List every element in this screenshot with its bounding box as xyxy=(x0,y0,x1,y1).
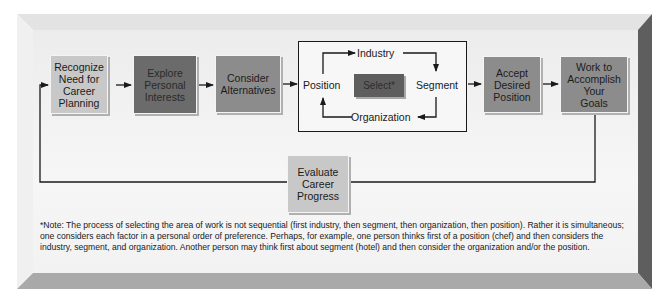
node-position: Position xyxy=(303,79,340,91)
step-work-goals: Work to Accomplish Your Goals xyxy=(560,56,628,113)
arrow-segment-organization xyxy=(418,97,436,117)
step-consider-alternatives: Consider Alternatives xyxy=(215,55,281,113)
arrow-organization-position xyxy=(323,98,352,117)
node-industry: Industry xyxy=(357,47,394,59)
step-accept-position: Accept Desired Position xyxy=(483,56,541,113)
footnote: *Note: The process of selecting the area… xyxy=(40,220,625,253)
step-evaluate-progress: Evaluate Career Progress xyxy=(287,155,349,213)
arrow-position-industry xyxy=(323,53,355,74)
select-center-box: Select* xyxy=(354,74,404,97)
node-segment: Segment xyxy=(416,79,458,91)
node-organization: Organization xyxy=(351,111,411,123)
step-explore-interests: Explore Personal Interests xyxy=(133,55,197,114)
step-recognize-need: Recognize Need for Career Planning xyxy=(50,55,108,114)
line-work-to-evaluate xyxy=(350,115,595,182)
arrow-industry-segment xyxy=(403,53,436,71)
